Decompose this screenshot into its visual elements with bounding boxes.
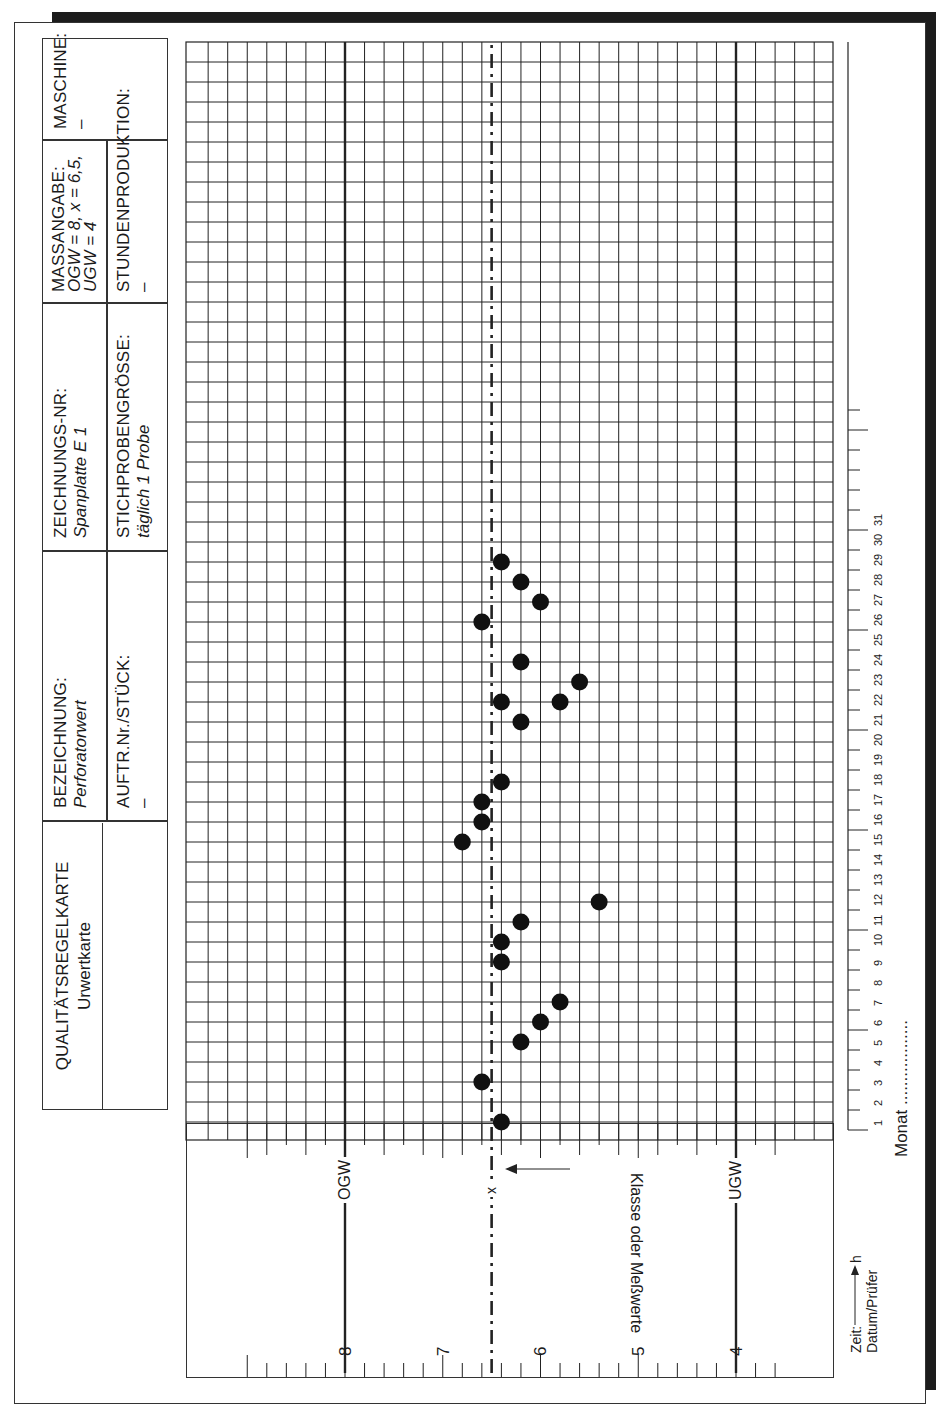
ugw-label: UGW (727, 1158, 745, 1203)
day-tick-label: 23 (872, 674, 884, 686)
day-tick-label: 29 (872, 554, 884, 566)
tick-label-5: 5 (629, 1347, 649, 1356)
day-tick-label: 26 (872, 614, 884, 626)
time-unit: h (848, 1255, 864, 1263)
axis-caption: Klasse oder Meßwerte (625, 1173, 645, 1343)
day-tick-label: 31 (872, 514, 884, 526)
day-tick-label: 2 (872, 1100, 884, 1106)
data-point (493, 554, 510, 571)
data-point (552, 694, 569, 711)
arrow-right-icon (851, 1265, 859, 1275)
day-tick-label: 6 (872, 1020, 884, 1026)
data-point (473, 814, 490, 831)
day-tick-label: 21 (872, 714, 884, 726)
day-tick-label: 19 (872, 754, 884, 766)
day-tick-label: 14 (872, 854, 884, 866)
day-tick-label: 22 (872, 694, 884, 706)
data-point (512, 1034, 529, 1051)
day-tick-label: 18 (872, 774, 884, 786)
data-point (512, 654, 529, 671)
mean-label: x (483, 1184, 499, 1197)
day-tick-label: 7 (872, 1000, 884, 1006)
day-tick-label: 28 (872, 574, 884, 586)
day-tick-label: 11 (872, 915, 884, 926)
day-tick-label: 4 (872, 1060, 884, 1066)
day-tick-label: 15 (872, 834, 884, 846)
day-tick-label: 1 (872, 1120, 884, 1126)
tick-label-4: 4 (727, 1347, 747, 1356)
day-tick-label: 12 (872, 894, 884, 906)
tick-label-8: 8 (336, 1347, 356, 1356)
day-tick-label: 3 (872, 1080, 884, 1086)
day-tick-label: 27 (872, 594, 884, 606)
data-point (473, 794, 490, 811)
data-point (512, 574, 529, 591)
day-tick-label: 5 (872, 1040, 884, 1046)
time-label: Zeit: (848, 1326, 864, 1353)
data-point (493, 774, 510, 791)
data-point (493, 934, 510, 951)
tick-label-7: 7 (434, 1347, 454, 1356)
month-label: Monat .................. (892, 1020, 912, 1157)
arrow-up-icon (505, 1164, 517, 1174)
data-point (454, 834, 471, 851)
data-point (493, 954, 510, 971)
date-label: Datum/Prüfer (864, 1270, 880, 1353)
day-tick-label: 8 (872, 980, 884, 986)
day-tick-label: 10 (872, 934, 884, 946)
day-tick-label: 13 (872, 874, 884, 886)
data-point (591, 894, 608, 911)
data-point (512, 714, 529, 731)
ogw-label: OGW (336, 1157, 354, 1203)
data-point (512, 914, 529, 931)
data-point (532, 1014, 549, 1031)
day-tick-label: 9 (872, 960, 884, 966)
day-tick-label: 16 (872, 814, 884, 826)
day-tick-label: 20 (872, 734, 884, 746)
control-chart-form: QUALITÄTSREGELKARTE Urwertkarte BEZEICHN… (0, 0, 944, 1413)
day-tick-label: 30 (872, 534, 884, 546)
chart-svg (0, 0, 944, 1413)
data-point (493, 1114, 510, 1131)
day-tick-label: 24 (872, 654, 884, 666)
data-point (493, 694, 510, 711)
day-tick-label: 25 (872, 634, 884, 646)
data-point (473, 614, 490, 631)
tick-label-6: 6 (531, 1347, 551, 1356)
data-point (552, 994, 569, 1011)
data-point (532, 594, 549, 611)
data-point (473, 1074, 490, 1091)
day-tick-label: 17 (872, 794, 884, 806)
data-point (571, 674, 588, 691)
